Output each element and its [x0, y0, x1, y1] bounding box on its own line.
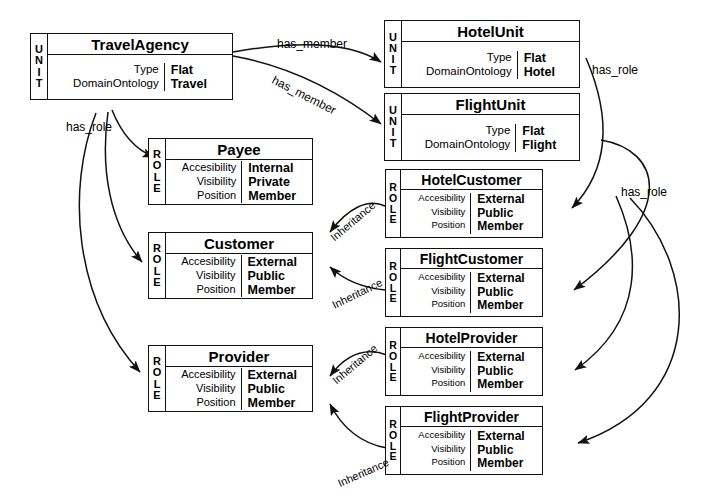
node-title: Provider — [166, 346, 312, 367]
node-travelagency[interactable]: UNIT TravelAgency Type Flat DomainOntolo… — [30, 33, 233, 100]
edge-label-has-member-1: has_member — [277, 37, 347, 51]
node-title: FlightUnit — [402, 94, 579, 115]
attr-key: Accesibility — [401, 430, 470, 443]
stereotype-role: ROLE — [386, 170, 401, 237]
attr-key: Visibility — [401, 207, 470, 220]
attr-value: External — [470, 272, 542, 285]
edge-label-inheritance-2: Inheritance — [330, 276, 384, 311]
attr-value: Public — [241, 382, 312, 396]
node-attributes: Accesibility External Visibility Public … — [401, 348, 542, 395]
attr-key: Accesibility — [401, 351, 470, 364]
stereotype-role: ROLE — [149, 233, 166, 298]
attr-value: Member — [470, 299, 542, 312]
attr-key: Position — [166, 396, 241, 410]
attr-value: Member — [470, 378, 542, 391]
attr-value: Hotel — [517, 65, 579, 79]
node-attributes: Accesibility External Visibility Public … — [166, 367, 312, 411]
attr-key: DomainOntology — [48, 77, 164, 91]
node-flightcustomer[interactable]: ROLE FlightCustomer Accesibility Externa… — [385, 248, 543, 317]
attr-value: External — [241, 368, 312, 382]
edge-inheritance-flightprovider-provider — [330, 404, 387, 448]
node-title: Payee — [166, 139, 312, 160]
node-attributes: Type Flat DomainOntology Hotel — [402, 42, 579, 87]
node-hotelunit[interactable]: UNIT HotelUnit Type Flat DomainOntology … — [384, 20, 580, 88]
node-body: FlightProvider Accesibility External Vis… — [401, 407, 542, 474]
attr-key: Visibility — [401, 365, 470, 378]
edge-label-has-member-2: has_member — [270, 73, 339, 117]
attr-value: External — [470, 430, 542, 443]
stereotype-unit: UNIT — [385, 21, 402, 87]
node-hotelprovider[interactable]: ROLE HotelProvider Accesibility External… — [385, 327, 543, 396]
attr-key: Accesibility — [166, 368, 241, 382]
edge-has-role-flightprovider — [578, 198, 679, 443]
node-flightprovider[interactable]: ROLE FlightProvider Accesibility Externa… — [385, 406, 543, 475]
node-title: FlightCustomer — [401, 249, 542, 269]
node-attributes: Accesibility External Visibility Public … — [401, 427, 542, 474]
node-body: Payee Accesibility Internal Visibility P… — [166, 139, 312, 204]
attr-key: Visibility — [401, 286, 470, 299]
attr-value: Member — [241, 189, 312, 203]
attr-key: Accesibility — [401, 272, 470, 285]
attr-value: Internal — [241, 161, 312, 175]
edge-label-has-role-right-top: has_role — [592, 63, 638, 77]
attr-value: Private — [241, 175, 312, 189]
node-body: Customer Accesibility External Visibilit… — [166, 233, 312, 298]
edge-has-role-flightcustomer — [574, 140, 649, 290]
node-body: HotelCustomer Accesibility External Visi… — [401, 170, 542, 237]
node-attributes: Accesibility External Visibility Public … — [166, 254, 312, 298]
node-attributes: Accesibility External Visibility Public … — [401, 190, 542, 237]
node-title: Customer — [166, 233, 312, 254]
node-body: Provider Accesibility External Visibilit… — [166, 346, 312, 411]
attr-value: Flat — [164, 63, 232, 77]
node-body: FlightUnit Type Flat DomainOntology Flig… — [402, 94, 579, 160]
node-title: HotelUnit — [402, 21, 579, 42]
node-attributes: Accesibility Internal Visibility Private… — [166, 160, 312, 204]
node-title: TravelAgency — [48, 34, 232, 55]
edge-label-has-role-right-bottom: has_role — [621, 185, 667, 199]
stereotype-unit: UNIT — [31, 34, 48, 99]
node-body: HotelUnit Type Flat DomainOntology Hotel — [402, 21, 579, 87]
attr-value: External — [470, 193, 542, 206]
stereotype-role: ROLE — [386, 328, 401, 395]
node-attributes: Accesibility External Visibility Public … — [401, 269, 542, 316]
attr-value: Flight — [515, 138, 579, 152]
attr-key: Position — [401, 457, 470, 470]
attr-value: Member — [470, 220, 542, 233]
attr-value: External — [241, 255, 312, 269]
attr-value: Travel — [164, 77, 232, 91]
attr-key: Type — [402, 51, 517, 65]
attr-key: Visibility — [166, 382, 241, 396]
attr-key: Accesibility — [401, 193, 470, 206]
node-provider[interactable]: ROLE Provider Accesibility External Visi… — [148, 345, 313, 412]
attr-value: Public — [470, 365, 542, 378]
attr-key: Visibility — [401, 444, 470, 457]
edge-label-inheritance-1: Inheritance — [328, 199, 377, 243]
edge-label-inheritance-3: Inheritance — [330, 342, 379, 386]
node-title: HotelCustomer — [401, 170, 542, 190]
attr-key: Type — [402, 124, 515, 138]
attr-value: Member — [470, 457, 542, 470]
attr-value: Flat — [515, 124, 579, 138]
stereotype-role: ROLE — [386, 249, 401, 316]
stereotype-role: ROLE — [149, 139, 166, 204]
node-attributes: Type Flat DomainOntology Travel — [48, 55, 232, 99]
attr-value: Member — [241, 396, 312, 410]
node-payee[interactable]: ROLE Payee Accesibility Internal Visibil… — [148, 138, 313, 205]
node-customer[interactable]: ROLE Customer Accesibility External Visi… — [148, 232, 313, 299]
node-hotelcustomer[interactable]: ROLE HotelCustomer Accesibility External… — [385, 169, 543, 238]
attr-key: Position — [401, 220, 470, 233]
attr-key: Type — [48, 63, 164, 77]
diagram-canvas: has_member has_member has_role has_role … — [0, 0, 718, 500]
node-title: FlightProvider — [401, 407, 542, 427]
node-attributes: Type Flat DomainOntology Flight — [402, 115, 579, 160]
node-body: HotelProvider Accesibility External Visi… — [401, 328, 542, 395]
attr-value: Public — [470, 207, 542, 220]
edge-has-role-provider — [79, 113, 140, 372]
node-flightunit[interactable]: UNIT FlightUnit Type Flat DomainOntology… — [384, 93, 580, 161]
attr-value: Public — [470, 444, 542, 457]
node-title: HotelProvider — [401, 328, 542, 348]
node-body: TravelAgency Type Flat DomainOntology Tr… — [48, 34, 232, 99]
attr-value: Public — [241, 269, 312, 283]
attr-key: Position — [166, 283, 241, 297]
attr-key: DomainOntology — [402, 65, 517, 79]
